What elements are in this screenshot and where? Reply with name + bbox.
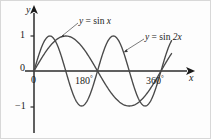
- y-tick-label-minus-1: −1: [15, 101, 26, 111]
- sin-x-arg: x: [107, 16, 111, 26]
- curve-label-sin-2x: y = sin 2x: [145, 33, 182, 43]
- y-axis-label: y: [26, 5, 30, 15]
- x-tick-label-180: 180°: [75, 75, 93, 86]
- leader-line-sin-x: [62, 23, 78, 36]
- y-tick-label-0: 0: [20, 63, 25, 73]
- x-axis-label: x: [189, 73, 193, 83]
- degree-symbol-180: °: [90, 74, 93, 82]
- sin-x-op: = sin: [83, 16, 107, 26]
- x-tick-180-value: 180: [75, 75, 90, 86]
- x-tick-label-360: 360°: [146, 75, 164, 86]
- x-tick-label-0: 0: [31, 75, 36, 85]
- sin-2x-arg: 2x: [173, 32, 182, 42]
- x-tick-360-value: 360: [146, 75, 161, 86]
- y-tick-label-1: 1: [20, 30, 25, 40]
- figure-sine-curves: y x 1 0 −1 0 180° 360° y = sin x y = sin…: [0, 0, 211, 139]
- sin-2x-op: = sin: [149, 32, 173, 42]
- degree-symbol-360: °: [161, 74, 164, 82]
- curve-label-sin-x: y = sin x: [79, 17, 111, 27]
- leader-line-sin-2x: [125, 39, 144, 51]
